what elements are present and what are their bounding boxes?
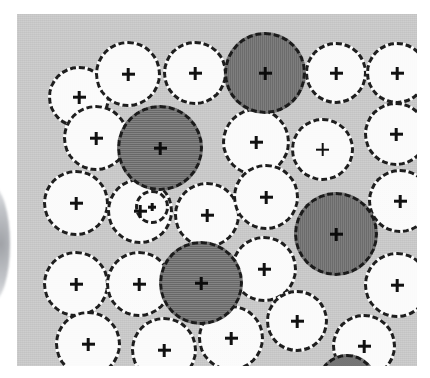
dark-circle-cell [117, 105, 203, 191]
crosshair-marker-icon [358, 340, 371, 353]
crosshair-marker-icon [70, 278, 83, 291]
dark-circle-cell [224, 32, 306, 114]
light-circle-cell [131, 317, 197, 366]
crosshair-marker-icon [82, 338, 95, 351]
crosshair-marker-icon [391, 279, 404, 292]
crosshair-marker-icon [291, 315, 304, 328]
light-circle-cell [364, 102, 417, 166]
crosshair-marker-icon [201, 209, 214, 222]
crosshair-marker-icon [250, 136, 263, 149]
light-circle-cell [43, 170, 109, 236]
crosshair-marker-icon [73, 91, 86, 104]
crosshair-marker-icon [258, 263, 271, 276]
crosshair-marker-icon [158, 344, 171, 357]
light-circle-cell [174, 182, 240, 248]
crosshair-marker-icon [390, 128, 403, 141]
crosshair-marker-icon [225, 332, 238, 345]
figure-root [0, 0, 430, 378]
crosshair-marker-icon [330, 228, 343, 241]
crosshair-marker-icon [133, 278, 146, 291]
light-circle-cell [305, 42, 367, 104]
crosshair-marker-icon [134, 205, 147, 218]
crosshair-marker-icon [316, 143, 329, 156]
crosshair-marker-icon [259, 67, 272, 80]
crosshair-marker-icon [260, 191, 273, 204]
light-circle-cell [364, 252, 417, 318]
gray-field-panel [17, 14, 417, 366]
crosshair-marker-icon [154, 142, 167, 155]
left-edge-arc-artifact [0, 186, 10, 302]
crosshair-marker-icon [148, 203, 156, 211]
crosshair-marker-icon [122, 68, 135, 81]
dark-circle-cell [159, 241, 243, 325]
crosshair-marker-icon [189, 67, 202, 80]
light-circle-cell [163, 41, 227, 105]
crosshair-marker-icon [394, 195, 407, 208]
light-circle-cell [55, 311, 121, 366]
crosshair-marker-icon [70, 197, 83, 210]
crosshair-marker-icon [195, 277, 208, 290]
light-circle-cell [43, 251, 109, 317]
light-circle-cell [366, 42, 417, 104]
crosshair-marker-icon [330, 67, 343, 80]
light-circle-cell [266, 290, 328, 352]
crosshair-marker-icon [90, 132, 103, 145]
light-circle-cell [95, 41, 161, 107]
light-circle-cell [233, 164, 299, 230]
light-circle-cell [291, 118, 354, 181]
dark-circle-cell [294, 192, 378, 276]
crosshair-marker-icon [391, 67, 404, 80]
